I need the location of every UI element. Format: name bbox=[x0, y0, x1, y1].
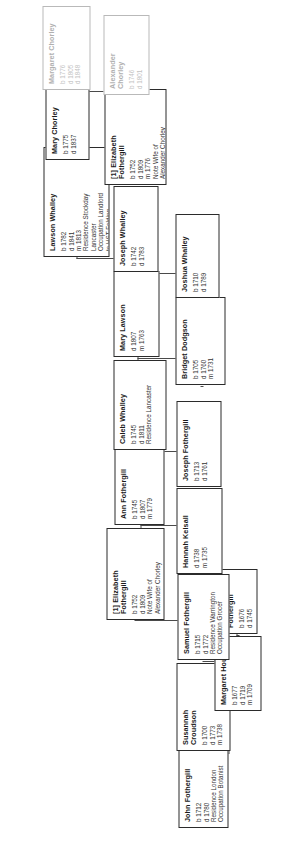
connector-line bbox=[202, 661, 214, 662]
person-node-bridget-dodgson[interactable]: Bridget Dodgsonb 1705 d 1760 m 1731 bbox=[175, 297, 225, 385]
person-node-joshua-whalley[interactable]: Joshua Whalleyb 1710 d 1789 bbox=[175, 214, 219, 298]
person-node-samuel-fothergill[interactable]: Samuel Fothergillb 1715 d 1772 Residence… bbox=[177, 574, 229, 660]
connector-line bbox=[137, 358, 177, 359]
person-fact-lines: b 1782 d 1841 m 1813 Residence Stockday … bbox=[59, 153, 109, 251]
person-node-ann-fothergill[interactable]: Ann Fothergillb 1745 d 1807 m 1779 bbox=[114, 440, 164, 525]
person-facts: b 1710 d 1789 bbox=[191, 220, 206, 292]
person-fact-lines: b 1752 d 1809 Note Wife of Alexander Cho… bbox=[130, 534, 160, 614]
person-fact-lines: b 1745 d 1807 m 1779 bbox=[130, 446, 152, 519]
person-facts: b 1705 d 1760 m 1731 bbox=[191, 303, 213, 379]
person-facts: b 1712 d 1780 Residence London Occupatio… bbox=[194, 748, 224, 822]
person-node-joseph-whalley[interactable]: Joseph Whalleyb 1742 d 1783 bbox=[113, 186, 158, 272]
person-facts: b 1745 d 1811 Residence Lancaster bbox=[129, 366, 151, 444]
person-node-joseph-fothergill-1713[interactable]: Joseph Fothergillb 1713 d 1761 bbox=[176, 401, 221, 487]
person-name: Mary Lawson bbox=[118, 277, 126, 351]
person-name: Susannah Croudson bbox=[181, 669, 197, 745]
person-name: Hannah Kelsall bbox=[181, 494, 189, 568]
person-facts: b 1742 d 1783 bbox=[129, 192, 144, 266]
person-name: [1] Elizabeth Fothergill bbox=[109, 95, 125, 179]
person-fact-lines: b 1776 d 1805 d 1848 bbox=[58, 12, 80, 84]
person-node-elizabeth-fothergill-1752[interactable]: [1] Elizabeth Fothergillb 1752 d 1809 No… bbox=[106, 528, 164, 620]
person-name: Ann Fothergill bbox=[119, 446, 127, 519]
person-facts: b 1677 d 1719 m 1709 bbox=[230, 642, 252, 705]
person-fact-lines: b 1775 d 1837 bbox=[61, 82, 76, 154]
person-name: [1] Elizabeth Fothergill bbox=[111, 534, 127, 614]
person-name: Joseph Whalley bbox=[118, 192, 126, 266]
family-tree-canvas: John Fothergillb 1712 d 1780 Residence L… bbox=[0, 0, 289, 850]
person-node-mary-lawson[interactable]: Mary Lawsond 1807 m 1763 bbox=[113, 271, 159, 357]
person-name: Alexander Chorley bbox=[108, 21, 124, 89]
person-node-hannah-kelsall[interactable]: Hannah Kelsalld 1738 m 1735 bbox=[176, 488, 222, 574]
person-facts: d 1807 m 1763 bbox=[129, 277, 144, 351]
person-facts: b 1746 d 1801 bbox=[127, 21, 142, 89]
connector-line bbox=[140, 525, 177, 526]
person-facts: b 1775 d 1837 bbox=[61, 82, 76, 154]
person-fact-lines: b 1705 d 1760 m 1731 bbox=[191, 303, 213, 379]
person-name: Joseph Fothergill bbox=[181, 407, 189, 481]
connector-line bbox=[76, 258, 114, 259]
person-fact-lines: b 1715 d 1772 Residence Warrington Occup… bbox=[193, 580, 223, 654]
person-fact-lines: b 1745 d 1811 Residence Lancaster bbox=[129, 366, 151, 444]
person-name: Lawson Whalley bbox=[48, 153, 56, 251]
person-name: Mary Chorley bbox=[50, 82, 58, 154]
person-name: Samuel Fothergill bbox=[182, 580, 190, 654]
person-name: Bridget Dodgson bbox=[180, 303, 188, 379]
person-fact-lines: d 1738 m 1735 bbox=[192, 494, 207, 568]
person-facts: d 1738 m 1735 bbox=[192, 494, 207, 568]
connector-line bbox=[134, 620, 178, 621]
person-facts: b 1715 d 1772 Residence Warrington Occup… bbox=[193, 580, 223, 654]
person-node-lawson-whalley[interactable]: Lawson Whalleyb 1782 d 1841 m 1813 Resid… bbox=[43, 147, 109, 257]
person-name: Joshua Whalley bbox=[180, 220, 188, 292]
person-facts: b 1745 d 1807 m 1779 bbox=[130, 446, 152, 519]
person-fact-lines: b 1712 d 1780 Residence London Occupatio… bbox=[194, 748, 224, 822]
person-fact-lines: b 1752 d 1809 m 1776 Note Wife of Alexan… bbox=[128, 95, 165, 179]
person-fact-lines: b 1677 d 1719 m 1709 bbox=[230, 642, 252, 705]
person-facts: b 1782 d 1841 m 1813 Residence Stockday … bbox=[59, 153, 109, 251]
connector-line bbox=[200, 386, 203, 387]
person-fact-lines: b 1746 d 1801 bbox=[127, 21, 142, 89]
person-name: Margaret Chorley bbox=[47, 12, 55, 84]
person-fact-lines: b 1676 d 1745 bbox=[237, 575, 252, 628]
person-node-alexander-chorley[interactable]: Alexander Chorleyb 1746 d 1801 bbox=[103, 15, 149, 95]
person-node-caleb-whalley[interactable]: Caleb Whalleyb 1745 d 1811 Residence Lan… bbox=[113, 360, 166, 450]
person-name: John Fothergill bbox=[183, 748, 191, 822]
person-facts: b 1752 d 1809 m 1776 Note Wife of Alexan… bbox=[128, 95, 165, 179]
person-name: Caleb Whalley bbox=[118, 366, 126, 444]
person-facts: b 1676 d 1745 bbox=[237, 575, 252, 628]
person-node-margaret-chorley[interactable]: Margaret Chorleyb 1776 d 1805 d 1848 bbox=[42, 6, 90, 90]
person-fact-lines: d 1807 m 1763 bbox=[129, 277, 144, 351]
person-fact-lines: b 1742 d 1783 bbox=[129, 192, 144, 266]
person-node-john-fothergill-1712[interactable]: John Fothergillb 1712 d 1780 Residence L… bbox=[178, 742, 228, 828]
person-facts: b 1776 d 1805 d 1848 bbox=[58, 12, 80, 84]
person-facts: b 1713 d 1761 bbox=[192, 407, 207, 481]
person-facts: b 1752 d 1809 Note Wife of Alexander Cho… bbox=[130, 534, 160, 614]
person-fact-lines: b 1710 d 1789 bbox=[191, 220, 206, 292]
person-fact-lines: b 1713 d 1761 bbox=[192, 407, 207, 481]
person-node-elizabeth-fothergill-lower[interactable]: [1] Elizabeth Fothergillb 1752 d 1809 m … bbox=[104, 89, 166, 185]
